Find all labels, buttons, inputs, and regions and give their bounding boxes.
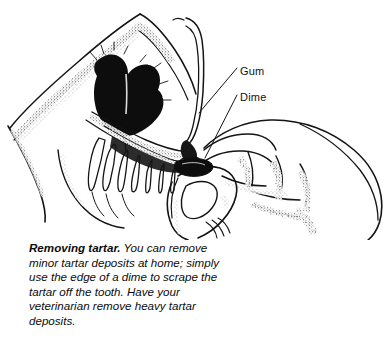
figure-dog-tartar-removal: Gum Dime Removing tartar. You can remove…	[0, 0, 386, 354]
caption-lead-in: Removing tartar.	[29, 241, 121, 254]
label-dime: Dime	[240, 91, 266, 103]
nose-center-line	[126, 74, 127, 114]
dime-body	[174, 158, 212, 176]
dog-dental-illustration	[0, 0, 386, 240]
figure-caption: Removing tartar. You can remove minor ta…	[29, 241, 239, 329]
label-gum: Gum	[240, 65, 264, 77]
dime	[174, 158, 212, 176]
